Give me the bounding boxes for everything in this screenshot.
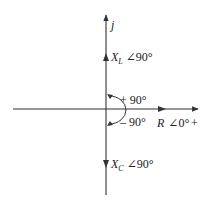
- negative-rotation-label: – 90°: [119, 115, 146, 129]
- positive-real-axis-label: +: [191, 116, 198, 130]
- inductive-label: XL∠90°: [110, 50, 153, 66]
- phasor-diagram: j XL∠90° + 90° – 90° R∠0° + XC∠90°: [0, 0, 211, 207]
- resistive-phasor-arrow-icon: [158, 106, 166, 112]
- resistive-label: R∠0°: [156, 116, 189, 130]
- capacitive-phasor-arrow-icon: [103, 160, 109, 168]
- inductive-phasor-arrow-icon: [103, 53, 109, 61]
- positive-rotation-label: + 90°: [120, 93, 147, 107]
- j-axis-label: j: [109, 18, 115, 32]
- capacitive-label: XC∠90°: [110, 157, 154, 173]
